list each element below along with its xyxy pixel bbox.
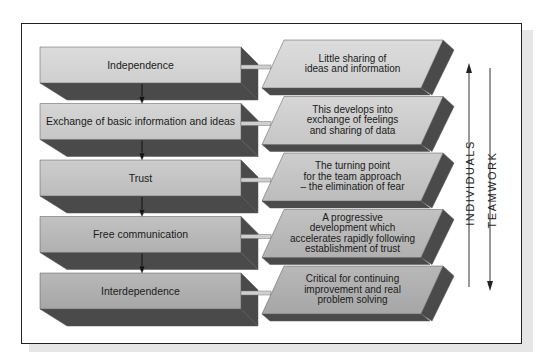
connector-bar [241, 65, 271, 69]
stage-label: Interdependence [40, 273, 241, 309]
connector-bar [241, 122, 271, 126]
connector-bar [241, 291, 271, 295]
connector-bar [241, 235, 271, 239]
stage-description: The turning point for the team approach … [270, 153, 435, 201]
stage-label: Exchange of basic information and ideas [40, 104, 241, 140]
stage-label: Independence [40, 47, 241, 83]
stage-box-bottom [40, 309, 258, 326]
stage-box-bottom [40, 196, 258, 213]
individuals-label: INDIVIDUALS [464, 138, 476, 228]
teamwork-label: TEAMWORK [486, 150, 498, 230]
connector-bar [241, 178, 271, 182]
stage-box-bottom [40, 140, 258, 157]
desc-box-bottom [262, 258, 430, 265]
desc-box-bottom [262, 145, 430, 152]
stage-label: Trust [40, 160, 241, 196]
desc-box-bottom [262, 314, 430, 321]
stage-description: This develops into exchange of feelings … [270, 97, 435, 145]
desc-box-bottom [262, 88, 430, 95]
stage-description: Little sharing of ideas and information [270, 40, 435, 88]
stage-box-bottom [40, 253, 258, 270]
stage-description: A progressive development which accelera… [270, 210, 435, 258]
stage-label: Free communication [40, 217, 241, 253]
stage-description: Critical for continuing improvement and … [270, 266, 435, 314]
desc-box-bottom [262, 201, 430, 208]
stage-box-bottom [40, 83, 258, 100]
